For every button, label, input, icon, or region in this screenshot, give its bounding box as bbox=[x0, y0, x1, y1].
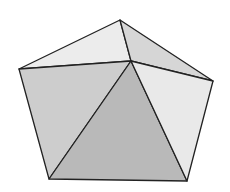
polyhedron-figure bbox=[0, 0, 230, 192]
faces-group bbox=[19, 20, 213, 181]
polyhedron-svg bbox=[0, 0, 230, 192]
